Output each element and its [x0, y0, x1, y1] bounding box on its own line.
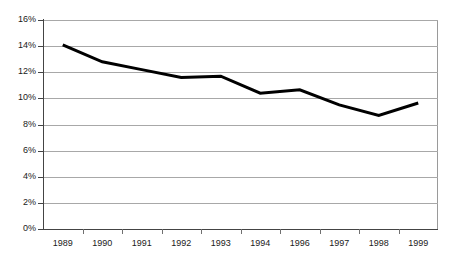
x-tick-1 — [83, 229, 84, 234]
x-tick-3 — [162, 229, 163, 234]
x-tick-8 — [359, 229, 360, 234]
y-axis-line — [43, 19, 44, 230]
y-tick-14 — [38, 46, 43, 47]
y-axis-label-12pct: 12% — [0, 67, 36, 76]
gridline-2 — [43, 203, 438, 204]
gridline-16 — [43, 20, 438, 21]
x-tick-4 — [201, 229, 202, 234]
y-tick-10 — [38, 98, 43, 99]
y-axis-label-2pct: 2% — [0, 198, 36, 207]
y-tick-6 — [38, 151, 43, 152]
y-axis-label-10pct: 10% — [0, 93, 36, 102]
y-tick-2 — [38, 203, 43, 204]
gridline-8 — [43, 125, 438, 126]
gridline-12 — [43, 72, 438, 73]
gridline-14 — [43, 46, 438, 47]
y-axis-label-16pct: 16% — [0, 15, 36, 24]
y-axis-label-8pct: 8% — [0, 120, 36, 129]
line-chart: 0%2%4%6%8%10%12%14%16% 19891990199119921… — [0, 0, 453, 261]
x-tick-5 — [241, 229, 242, 234]
gridline-10 — [43, 98, 438, 99]
x-tick-2 — [122, 229, 123, 234]
gridline-4 — [43, 177, 438, 178]
y-axis-label-14pct: 14% — [0, 41, 36, 50]
y-tick-4 — [38, 177, 43, 178]
y-tick-0 — [38, 229, 43, 230]
y-tick-16 — [38, 20, 43, 21]
gridline-6 — [43, 151, 438, 152]
x-tick-6 — [280, 229, 281, 234]
y-tick-12 — [38, 72, 43, 73]
y-axis-label-0pct: 0% — [0, 224, 36, 233]
y-axis-label-6pct: 6% — [0, 146, 36, 155]
y-tick-8 — [38, 125, 43, 126]
x-axis-label-1999: 1999 — [395, 238, 441, 248]
x-tick-9 — [399, 229, 400, 234]
y-axis-label-4pct: 4% — [0, 172, 36, 181]
x-tick-7 — [320, 229, 321, 234]
